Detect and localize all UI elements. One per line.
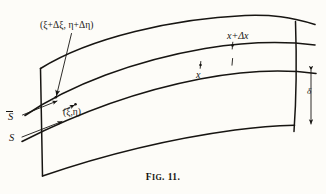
label-coordinate-x-plus-dx: x+Δx — [227, 31, 249, 41]
label-surface-s-bar-text: S — [8, 112, 13, 123]
figure-caption: FIG. 11. — [0, 172, 326, 182]
label-upper-surface-point: (ξ+Δξ, η+Δη) — [40, 21, 94, 31]
leader-line-s-bar — [23, 101, 58, 115]
curve-bottom-outer — [43, 125, 295, 176]
tick-mark-lower-right — [232, 59, 233, 66]
figure-caption-smallcaps: IG — [152, 173, 162, 182]
left-edge-line — [41, 69, 43, 177]
tick-mark-x — [200, 62, 201, 69]
label-thickness-delta: δ — [307, 87, 311, 96]
point-marker-xi-eta — [74, 103, 77, 106]
label-surface-s: S — [9, 133, 14, 144]
right-edge-line — [294, 22, 296, 132]
leader-line-upper-point — [57, 34, 72, 96]
point-marker-xi-delta — [55, 96, 58, 99]
figure-11-diagram: (ξ+Δξ, η+Δη) (ξ,η) x x+Δx S S δ FIG. 11. — [0, 0, 326, 194]
label-surface-s-bar: S — [8, 112, 13, 123]
figure-caption-number: . 11. — [162, 172, 180, 182]
label-lower-surface-point: (ξ,η) — [63, 108, 81, 118]
label-coordinate-x: x — [196, 70, 200, 80]
tick-mark-x-plus-dx — [232, 42, 233, 49]
